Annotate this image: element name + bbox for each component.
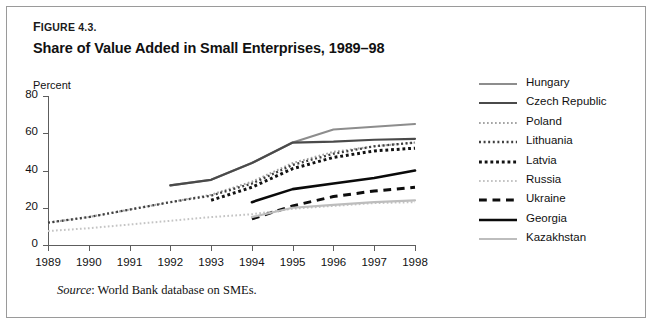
x-tick-mark	[415, 246, 416, 251]
x-tick-label: 1993	[189, 256, 233, 268]
legend-label: Poland	[526, 115, 562, 127]
figure-panel: FIGURE 4.3. Share of Value Added in Smal…	[0, 0, 654, 326]
x-tick-label: 1991	[108, 256, 152, 268]
y-axis-title: Percent	[33, 79, 71, 91]
x-tick-label: 1997	[352, 256, 396, 268]
source-note: Source: World Bank database on SMEs.	[57, 283, 257, 298]
y-tick-mark	[43, 208, 48, 209]
y-tick-mark	[43, 96, 48, 97]
x-tick-label: 1992	[148, 256, 192, 268]
legend-label: Kazakhstan	[526, 231, 586, 243]
page-title: Share of Value Added in Small Enterprise…	[33, 40, 384, 56]
legend-swatch	[478, 74, 518, 93]
legend-label: Lithuania	[526, 134, 573, 146]
legend-swatch	[478, 132, 518, 151]
x-tick-mark	[89, 246, 90, 251]
legend-swatch	[478, 93, 518, 112]
legend-item-poland[interactable]: Poland	[478, 113, 638, 132]
figure-label-word: IGURE	[41, 21, 75, 33]
x-tick-mark	[170, 246, 171, 251]
y-tick-mark	[43, 133, 48, 134]
legend-item-hungary[interactable]: Hungary	[478, 74, 638, 93]
y-axis-line	[48, 96, 49, 246]
source-text: : World Bank database on SMEs.	[91, 283, 256, 297]
y-tick-label: 40	[8, 163, 38, 175]
x-tick-label: 1990	[67, 256, 111, 268]
legend-label: Russia	[526, 173, 561, 185]
y-tick-label: 60	[8, 125, 38, 137]
x-tick-label: 1994	[230, 256, 274, 268]
x-tick-mark	[211, 246, 212, 251]
y-tick-label: 20	[8, 200, 38, 212]
x-tick-label: 1998	[393, 256, 437, 268]
x-tick-mark	[252, 246, 253, 251]
x-tick-mark	[374, 246, 375, 251]
figure-label-initial: F	[33, 20, 41, 34]
x-axis-line	[48, 245, 416, 246]
figure-label: FIGURE 4.3.	[33, 20, 97, 34]
legend-swatch	[478, 171, 518, 190]
legend-item-lithuania[interactable]: Lithuania	[478, 132, 638, 151]
x-tick-mark	[48, 246, 49, 251]
figure-label-number: 4.3.	[78, 21, 96, 33]
legend-label: Georgia	[526, 212, 567, 224]
legend-item-kazakhstan[interactable]: Kazakhstan	[478, 229, 638, 248]
legend-item-russia[interactable]: Russia	[478, 171, 638, 190]
legend-swatch	[478, 190, 518, 209]
x-tick-mark	[333, 246, 334, 251]
legend-item-latvia[interactable]: Latvia	[478, 152, 638, 171]
source-label: Source	[57, 283, 91, 297]
legend-label: Czech Republic	[526, 95, 607, 107]
x-tick-label: 1995	[271, 256, 315, 268]
legend-label: Ukraine	[526, 192, 566, 204]
x-tick-label: 1996	[311, 256, 355, 268]
legend-swatch	[478, 229, 518, 248]
x-tick-label: 1989	[26, 256, 70, 268]
legend-item-czech-republic[interactable]: Czech Republic	[478, 93, 638, 112]
legend-item-ukraine[interactable]: Ukraine	[478, 190, 638, 209]
x-tick-mark	[130, 246, 131, 251]
legend-item-georgia[interactable]: Georgia	[478, 210, 638, 229]
x-tick-mark	[293, 246, 294, 251]
y-tick-label: 0	[8, 237, 38, 249]
legend-swatch	[478, 113, 518, 132]
y-tick-mark	[43, 171, 48, 172]
y-tick-label: 80	[8, 88, 38, 100]
legend-swatch	[478, 210, 518, 229]
chart-legend: HungaryCzech RepublicPolandLithuaniaLatv…	[478, 74, 638, 249]
legend-label: Hungary	[526, 76, 569, 88]
legend-label: Latvia	[526, 154, 557, 166]
legend-swatch	[478, 152, 518, 171]
